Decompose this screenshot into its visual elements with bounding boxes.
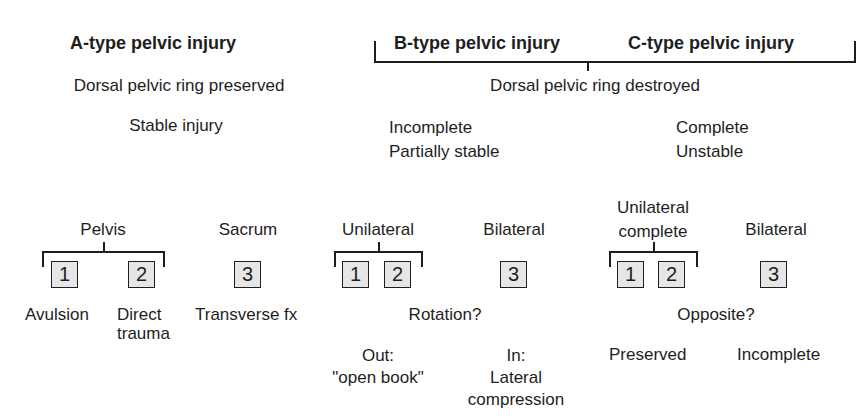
bc-bracket-left [374, 41, 376, 63]
a-bracket-left [42, 251, 44, 267]
a3-box: 3 [234, 261, 261, 288]
opposite-question: Opposite? [677, 305, 755, 325]
b-bracket-bar [334, 251, 422, 253]
bc-bracket-right [854, 41, 856, 63]
dorsal-preserved: Dorsal pelvic ring preserved [74, 76, 285, 96]
a-bracket-bar [42, 251, 164, 253]
a1-box: 1 [51, 261, 78, 288]
b-unilateral-label: Unilateral [342, 220, 414, 240]
c-bilateral-label: Bilateral [745, 220, 806, 240]
b3-box: 3 [500, 261, 527, 288]
b2-box: 2 [384, 261, 411, 288]
c-bracket-right [696, 251, 698, 267]
b-bracket-right [421, 251, 423, 267]
stability-c: Complete Unstable [676, 116, 749, 164]
transverse-fx-label: Transverse fx [195, 305, 297, 325]
a2-box: 2 [128, 261, 155, 288]
sacrum-label: Sacrum [219, 220, 278, 240]
c3-box: 3 [760, 261, 787, 288]
c-bracket-bar [609, 251, 697, 253]
stability-a: Stable injury [129, 116, 223, 136]
pelvis-label: Pelvis [80, 220, 125, 240]
bc-bracket-bar [374, 61, 856, 63]
c-unilateral-label: Unilateral complete [617, 196, 689, 244]
opposite-preserved: Preserved [609, 345, 686, 365]
stability-b: Incomplete Partially stable [389, 116, 500, 164]
rotation-in: In: Lateral compression [468, 345, 564, 411]
c-bracket-left [609, 251, 611, 267]
avulsion-label: Avulsion [25, 305, 89, 325]
c-type-header: C-type pelvic injury [628, 33, 794, 53]
rotation-out: Out: "open book" [332, 345, 423, 389]
b1-box: 1 [342, 261, 369, 288]
dorsal-destroyed: Dorsal pelvic ring destroyed [490, 76, 700, 96]
b-bilateral-label: Bilateral [483, 220, 544, 240]
opposite-incomplete: Incomplete [737, 345, 820, 365]
c2-box: 2 [658, 261, 685, 288]
bc-bracket-stem [587, 61, 589, 71]
a-type-header: A-type pelvic injury [70, 33, 236, 53]
rotation-question: Rotation? [409, 305, 482, 325]
b-type-header: B-type pelvic injury [394, 33, 560, 53]
c1-box: 1 [617, 261, 644, 288]
a-bracket-right [163, 251, 165, 267]
direct-trauma-label: Direct trauma [117, 305, 170, 343]
b-bracket-left [334, 251, 336, 267]
